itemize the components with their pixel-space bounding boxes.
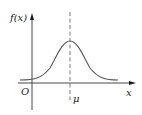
y-axis-arrow-icon <box>30 13 34 20</box>
x-axis-label: x <box>126 87 132 98</box>
normal-curve <box>20 41 118 80</box>
x-axis-arrow-icon <box>129 81 136 85</box>
mean-label: μ <box>73 93 80 104</box>
y-axis-label: f(x) <box>9 12 27 23</box>
origin-label: O <box>21 86 29 97</box>
normal-distribution-diagram: f(x) x O μ <box>0 0 142 115</box>
